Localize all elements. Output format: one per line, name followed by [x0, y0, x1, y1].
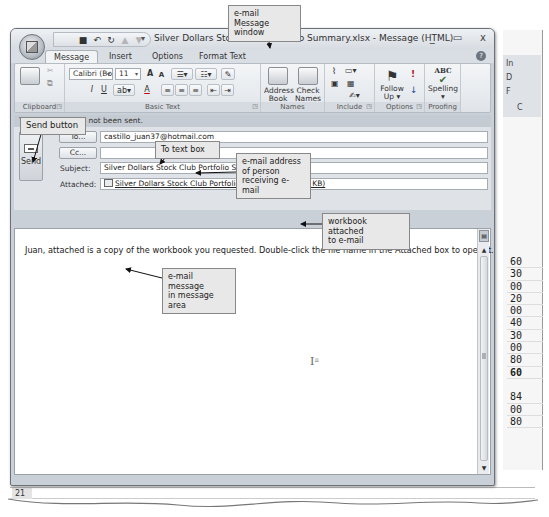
scroll-grip[interactable]: [482, 353, 486, 359]
signature-icon[interactable]: ✍▾: [349, 92, 360, 100]
callout-email-address: e-mail addressof personreceiving e-mail: [236, 153, 311, 199]
help-icon[interactable]: ?: [476, 51, 486, 61]
torn-paper-edge: [8, 497, 538, 511]
align-left-button[interactable]: ≡: [161, 84, 174, 96]
bg-cell: 40: [507, 317, 543, 329]
font-size-combo[interactable]: 11▾: [115, 68, 141, 80]
bg-cell: 00: [507, 342, 543, 354]
highlight-button[interactable]: ab▾: [113, 84, 135, 96]
bg-cell: 00: [507, 281, 543, 293]
office-button[interactable]: [19, 34, 45, 60]
ruler-toggle-icon[interactable]: ▤: [479, 230, 489, 242]
cut-icon[interactable]: ✂: [47, 67, 53, 75]
tab-insert[interactable]: Insert: [101, 50, 140, 63]
background-excel-column: 60 30 00 20 00 40 30 00 80 60 84 00 80: [507, 256, 543, 428]
ibeam-cursor-icon: I≡: [310, 355, 319, 368]
calendar-icon[interactable]: ▦: [347, 80, 355, 88]
ribbon-tabs: Message Insert Options Format Text ?: [11, 49, 494, 63]
clear-formatting-button[interactable]: ✎: [221, 68, 235, 80]
cc-button[interactable]: Cc...: [59, 147, 97, 159]
font-color-button[interactable]: A: [139, 84, 155, 96]
shrink-font-button[interactable]: A: [157, 69, 166, 81]
flag-icon: ⚑: [378, 67, 406, 85]
bg-cell: 00: [507, 305, 543, 317]
paste-button[interactable]: [20, 67, 40, 87]
group-label-include: Include◳: [325, 102, 374, 112]
address-book-button[interactable]: AddressBook: [264, 67, 292, 103]
group-proofing: ABC ✔ Spelling▾ Proofing: [425, 64, 461, 112]
scroll-track[interactable]: [480, 256, 488, 461]
bg-cell: 30: [507, 268, 543, 280]
customize-qat-button[interactable]: ▾: [141, 34, 145, 43]
follow-up-button[interactable]: ⚑ FollowUp ▾: [378, 67, 406, 101]
decrease-indent-button[interactable]: ⇤: [207, 84, 220, 96]
message-text[interactable]: Juan, attached is a copy of the workbook…: [25, 245, 494, 255]
spelling-button[interactable]: ABC ✔ Spelling▾: [427, 67, 459, 101]
ribbon: ✂ ⧉ Clipboard◳ Calibri (Bo▾ 11▾ A A ☰▾ ☷…: [14, 63, 491, 113]
tab-format-text[interactable]: Format Text: [191, 50, 254, 63]
address-book-icon: [268, 67, 288, 85]
attach-item-icon[interactable]: ▣: [331, 80, 339, 88]
copy-icon[interactable]: ⧉: [47, 80, 53, 88]
align-center-button[interactable]: ≡: [175, 84, 188, 96]
font-name-combo[interactable]: Calibri (Bo▾: [69, 68, 113, 80]
dialog-launcher-icon[interactable]: ◳: [56, 101, 62, 111]
low-importance-button[interactable]: ↓: [410, 86, 418, 94]
increase-indent-button[interactable]: ⇥: [221, 84, 234, 96]
close-button[interactable]: x: [480, 32, 486, 43]
scroll-up-arrow[interactable]: ▲: [479, 245, 489, 254]
undo-icon[interactable]: ↶: [92, 35, 102, 45]
paste-icon: [20, 67, 40, 85]
grow-font-button[interactable]: A: [145, 68, 155, 80]
bullets-button[interactable]: ☰▾: [171, 68, 193, 80]
underline-button[interactable]: U: [99, 84, 109, 96]
background-excel-ribbon: In D F C: [503, 55, 541, 117]
bg-cell: [507, 379, 543, 391]
group-clipboard: ✂ ⧉ Clipboard◳: [15, 64, 65, 112]
italic-button[interactable]: I: [87, 84, 97, 96]
tab-message[interactable]: Message: [45, 50, 98, 63]
bg-ribbon-format: F: [506, 87, 511, 96]
message-area[interactable]: Juan, attached is a copy of the workbook…: [14, 228, 491, 475]
restore-button[interactable]: ▭: [453, 32, 462, 43]
business-card-icon[interactable]: ▭▾: [345, 67, 357, 75]
scroll-down-arrow[interactable]: ▼: [479, 463, 489, 472]
previous-item-icon[interactable]: ▲: [120, 35, 130, 45]
callout-send-button: Send button: [20, 117, 86, 135]
bg-ribbon-insert: In: [506, 59, 513, 68]
window-controls: _ ▭ x: [430, 32, 486, 43]
high-importance-button[interactable]: !: [411, 70, 415, 78]
office-logo-icon: [26, 41, 38, 53]
bg-ribbon-delete: D: [506, 73, 512, 82]
minimize-button[interactable]: _: [430, 32, 435, 43]
redo-icon[interactable]: ↻: [106, 35, 116, 45]
bg-ribbon-cells: C: [517, 103, 523, 112]
align-right-button[interactable]: ≡: [189, 84, 202, 96]
callout-to-text-box: To text box: [155, 141, 220, 159]
bg-cell: 80: [507, 354, 543, 366]
attach-file-icon[interactable]: ⌇: [332, 67, 336, 75]
tab-options[interactable]: Options: [144, 50, 191, 63]
window-title: Silver Dollars Stock Club Portfolio Summ…: [154, 33, 453, 43]
email-message-window: ■ ↶ ↻ ▲ ▼ ▾ Silver Dollars Stock Club Po…: [10, 28, 495, 486]
group-basic-text: Calibri (Bo▾ 11▾ A A ☰▾ ☷▾ ✎ I U ab▾ A ≡…: [65, 64, 261, 112]
group-label-clipboard: Clipboard◳: [15, 102, 64, 112]
group-label-proofing: Proofing: [425, 102, 460, 112]
check-names-button[interactable]: CheckNames: [294, 67, 322, 103]
attached-label: Attached:: [60, 180, 96, 189]
send-button[interactable]: Send: [19, 131, 43, 181]
group-names: AddressBook CheckNames Names: [261, 64, 325, 112]
excel-file-icon: [104, 179, 113, 187]
vertical-scrollbar[interactable]: ▤ ▲ ▼: [477, 229, 489, 474]
group-label-options: Options◳: [375, 102, 424, 112]
numbering-button[interactable]: ☷▾: [195, 68, 217, 80]
dialog-launcher-icon[interactable]: ◳: [252, 101, 258, 111]
group-label-names: Names: [261, 102, 324, 112]
subject-label: Subject:: [60, 164, 91, 173]
save-icon[interactable]: ■: [78, 35, 88, 45]
dialog-launcher-icon[interactable]: ◳: [416, 101, 422, 111]
group-options: ⚑ FollowUp ▾ ! ↓ Options◳: [375, 64, 425, 112]
bg-cell: 30: [507, 330, 543, 342]
quick-access-toolbar: ■ ↶ ↻ ▲ ▼: [53, 32, 151, 47]
dialog-launcher-icon[interactable]: ◳: [366, 101, 372, 111]
